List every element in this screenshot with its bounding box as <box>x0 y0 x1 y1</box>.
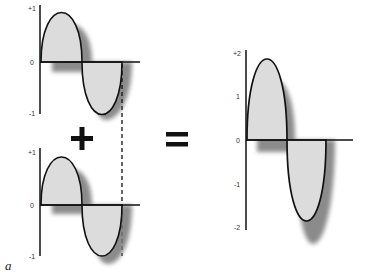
panel-label: a <box>5 258 12 273</box>
tick-max: +1 <box>28 149 36 156</box>
tick-zero: 0 <box>236 137 240 144</box>
top-left-wave-plot: +1 0 -1 <box>28 5 140 120</box>
equals-operator <box>166 132 188 147</box>
wave-superposition-diagram: +1 0 -1 +1 0 -1 +2 <box>0 0 368 275</box>
tick-one: 1 <box>236 93 240 100</box>
bottom-left-wave-plot: +1 0 -1 <box>28 148 140 264</box>
tick-neg-one: -1 <box>234 181 240 188</box>
tick-min: -1 <box>29 253 35 260</box>
tick-min: -1 <box>29 110 35 117</box>
right-sum-wave-plot: +2 1 0 -1 -2 <box>233 50 353 244</box>
tick-max: +2 <box>233 50 241 57</box>
positive-half-wave <box>41 157 82 205</box>
positive-half-wave <box>41 13 82 63</box>
tick-zero: 0 <box>30 202 34 209</box>
positive-half-wave <box>247 59 287 140</box>
tick-max: +1 <box>28 5 36 12</box>
plus-operator <box>71 127 93 150</box>
tick-min: -2 <box>234 224 240 231</box>
tick-zero: 0 <box>30 59 34 66</box>
